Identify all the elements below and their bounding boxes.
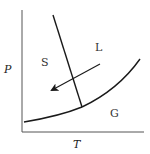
y-axis-label: P [3,63,12,76]
sublimation-curve [24,107,82,122]
region-label-solid: S [41,56,49,69]
region-label-liquid: L [95,41,103,54]
region-label-gas: G [110,107,119,120]
phase-diagram: S L G P T [0,0,150,154]
x-axis-label: T [73,138,82,151]
fusion-curve [53,15,82,107]
vaporization-curve [82,59,140,107]
